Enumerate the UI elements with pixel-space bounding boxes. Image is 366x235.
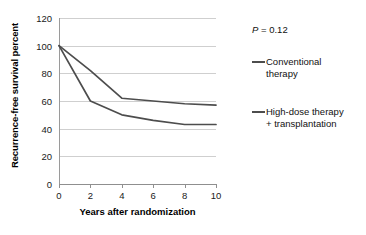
x-axis-tick-label: 6 <box>151 190 156 201</box>
survival-curve-chart: Recurrence-free survival percent 1201008… <box>0 0 366 235</box>
y-axis-tick-label: 100 <box>36 40 52 51</box>
x-axis-tick-marks <box>59 184 216 189</box>
x-axis-tick-mark <box>153 184 154 188</box>
y-axis-tick-label: 120 <box>36 13 52 24</box>
x-axis-tick-labels: 0246810 <box>59 190 216 204</box>
y-axis-tick-label: 40 <box>41 123 52 134</box>
x-axis-tick-mark <box>185 184 186 188</box>
plot-area <box>59 18 216 184</box>
x-axis-tick-mark <box>216 184 217 188</box>
legend-item-label: Conventional therapy <box>266 56 344 79</box>
y-axis-tick-labels: 120100806040200 <box>28 0 56 200</box>
x-axis-tick-mark <box>59 184 60 188</box>
x-axis-tick-label: 4 <box>119 190 124 201</box>
x-axis-tick-label: 2 <box>88 190 93 201</box>
data-curves <box>59 18 216 184</box>
legend-item-conventional-therapy: Conventional therapy <box>252 56 344 79</box>
x-axis-tick-label: 8 <box>182 190 187 201</box>
legend-item-high-dose-therapy: High-dose therapy + transplantation <box>252 106 344 129</box>
x-axis-tick-mark <box>90 184 91 188</box>
x-axis-tick-label: 10 <box>211 190 222 201</box>
legend-item-label: High-dose therapy + transplantation <box>266 106 344 129</box>
y-axis-title: Recurrence-free survival percent <box>0 0 30 190</box>
x-axis-tick-label: 0 <box>56 190 61 201</box>
x-axis-title: Years after randomization <box>40 206 235 217</box>
legend-line-icon <box>252 61 265 63</box>
x-axis-tick-mark <box>122 184 123 188</box>
y-axis-tick-label: 20 <box>41 151 52 162</box>
series-line <box>59 46 216 105</box>
y-axis-tick-label: 60 <box>41 96 52 107</box>
y-axis-tick-label: 80 <box>41 68 52 79</box>
legend-line-icon <box>252 111 265 113</box>
y-axis-tick-label: 0 <box>47 179 52 190</box>
p-value-annotation: P = 0.12 <box>252 24 288 35</box>
p-value-text: = 0.12 <box>258 24 287 35</box>
y-axis-title-text: Recurrence-free survival percent <box>10 22 21 167</box>
series-line <box>59 46 216 125</box>
